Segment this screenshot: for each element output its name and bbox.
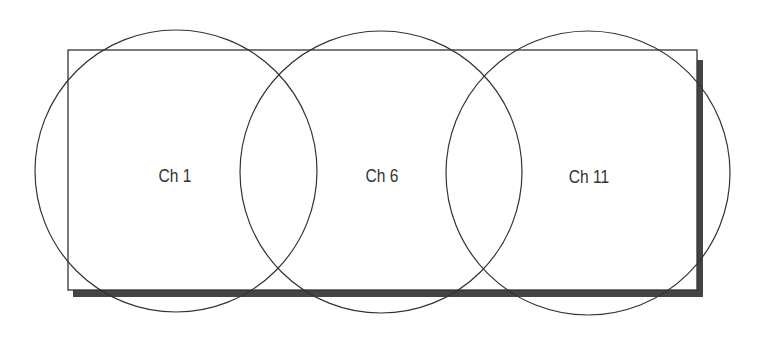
area-shadow-right [697,60,703,297]
area-shadow-bottom [73,290,703,297]
channel-6-label: Ch 6 [366,165,399,187]
channel-coverage-diagram: Ch 1 Ch 6 Ch 11 [0,0,757,339]
channel-1-label: Ch 1 [159,165,192,187]
channel-11-label: Ch 11 [569,166,609,188]
